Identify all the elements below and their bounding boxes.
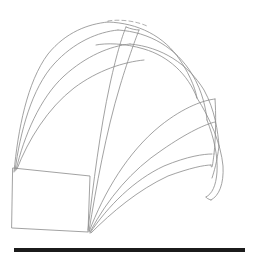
line-drawing-svg [0, 0, 253, 257]
figure-canvas [0, 0, 253, 257]
